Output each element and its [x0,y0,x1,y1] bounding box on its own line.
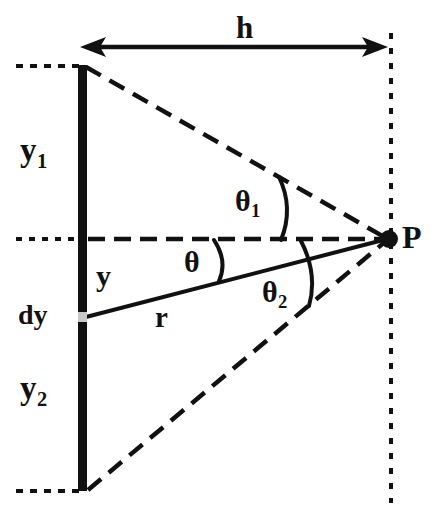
label-theta2-base: θ [262,275,278,308]
theta1-angle-arc [279,177,287,240]
label-theta2-subscript: 2 [278,291,287,312]
theta-angle-arc [214,240,223,281]
diagram-canvas [0,0,442,519]
label-y2-base: y [20,370,37,406]
label-y2: y2 [20,372,47,405]
label-y: y [96,261,111,291]
line-charge-diagram: h y1 y2 dy y r θ1 θ θ2 P [0,0,442,519]
label-dy: dy [18,301,48,329]
label-y2-subscript: 2 [37,388,47,410]
label-theta1: θ1 [235,186,260,216]
theta2-angle-arc [301,241,312,306]
label-theta1-base: θ [235,184,251,217]
label-theta2: θ2 [262,277,287,307]
dy-element [78,312,87,322]
field-point-dot [380,230,398,248]
h-dimension-arrow [80,37,388,57]
label-P: P [402,221,422,253]
label-y1-base: y [20,132,37,168]
label-theta1-subscript: 1 [251,200,260,221]
label-y1: y1 [20,134,47,167]
label-theta: θ [184,247,200,277]
label-h: h [236,12,253,43]
label-y1-subscript: 1 [37,150,47,172]
charged-rod [78,65,87,491]
label-r: r [155,303,168,332]
